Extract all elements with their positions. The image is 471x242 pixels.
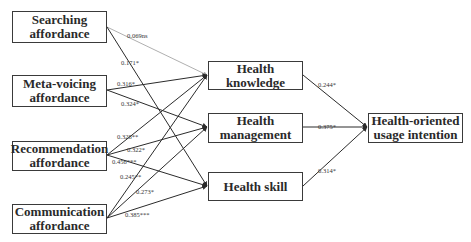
coef-recommendation-knowledge: 0.328** — [117, 133, 138, 140]
coef-metavoicing-management: 0.324* — [121, 100, 139, 107]
node-meta-voicing-affordance: Meta-voicing affordance — [12, 75, 107, 107]
coef-metavoicing-knowledge: 0.316* — [117, 80, 135, 87]
node-label-line2: affordance — [30, 219, 90, 233]
node-label-line1: Health-oriented — [371, 114, 459, 128]
node-label-line2: affordance — [30, 91, 90, 105]
coef-searching-knowledge: 0.069ns — [127, 32, 148, 39]
node-label-line1: Health — [237, 62, 275, 76]
node-health-skill: Health skill — [208, 172, 303, 201]
coef-skill-intention: 0.314* — [318, 167, 336, 174]
coef-recommendation-skill: 0.456*** — [112, 158, 136, 165]
coef-communication-knowledge: 0.245** — [120, 173, 141, 180]
node-label-line2: affordance — [30, 156, 90, 170]
path-communication-skill — [107, 186, 207, 218]
coef-communication-management: 0.273* — [136, 188, 154, 195]
node-label-line1: Searching — [32, 13, 87, 27]
node-communication-affordance: Communication affordance — [12, 204, 107, 234]
coef-searching-skill: 0.171* — [121, 59, 139, 66]
coef-communication-skill: 0.385*** — [125, 211, 149, 218]
path-recommendation-knowledge — [107, 75, 207, 155]
path-communication-knowledge — [107, 75, 207, 218]
node-label-line1: Health — [237, 114, 275, 128]
node-health-knowledge: Health knowledge — [208, 61, 303, 90]
node-label-line1: Recommendation — [11, 142, 109, 156]
coef-recommendation-management: 0.322* — [127, 146, 145, 153]
node-health-management: Health management — [208, 113, 303, 143]
node-label-line2: usage intention — [373, 128, 457, 142]
path-metavoicing-management — [107, 90, 207, 127]
node-label-line2: management — [220, 128, 292, 142]
node-recommendation-affordance: Recommendation affordance — [12, 141, 107, 171]
coef-management-intention: 0.375* — [318, 123, 336, 130]
node-label-line1: Meta-voicing — [23, 77, 96, 91]
coef-knowledge-intention: 0.244* — [318, 81, 336, 88]
node-label-line1: Health skill — [224, 180, 288, 194]
node-searching-affordance: Searching affordance — [12, 11, 107, 43]
node-health-oriented-usage-intention: Health-oriented usage intention — [368, 113, 463, 143]
node-label-line2: knowledge — [226, 76, 285, 90]
node-label-line2: affordance — [30, 27, 90, 41]
path-skill-intention — [303, 127, 367, 186]
node-label-line1: Communication — [15, 205, 105, 219]
